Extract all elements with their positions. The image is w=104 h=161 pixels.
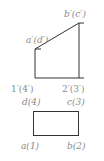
label-b-prime-c-prime: b′(c′)	[64, 9, 86, 19]
label-1-prime-4-prime: 1′(4′)	[11, 84, 34, 94]
label-2-prime-3-prime: 2′(3′)	[62, 84, 85, 94]
front-view	[35, 23, 84, 78]
label-b-2: b(2)	[67, 141, 86, 151]
label-d-4: d(4)	[22, 97, 41, 107]
plan-rectangle	[34, 112, 79, 136]
top-view	[34, 112, 79, 136]
diagram-lines	[0, 0, 104, 161]
label-a-1: a(1)	[21, 141, 39, 151]
label-c-3: c(3)	[67, 97, 85, 107]
label-a-prime-d-prime: a′(d′)	[26, 35, 48, 45]
projection-diagram: a′(d′) b′(c′) 1′(4′) 2′(3′) d(4) c(3) a(…	[0, 0, 104, 161]
